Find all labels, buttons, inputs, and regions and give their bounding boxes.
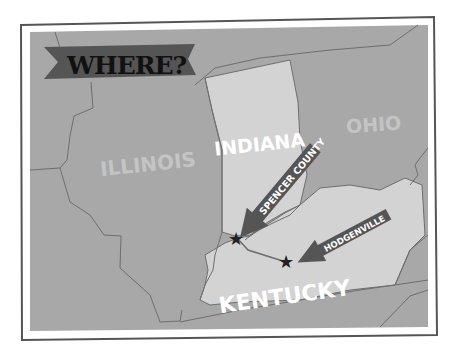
star-icon-hodgenville: ★ (278, 251, 294, 272)
state-label-ohio: OHIO (345, 111, 402, 137)
star-icon-spencer-county: ★ (228, 228, 244, 249)
map-illustration: ILLINOIS INDIANA OHIO KENTUCKY SPENCER C… (0, 0, 457, 360)
map-area: ILLINOIS INDIANA OHIO KENTUCKY SPENCER C… (30, 25, 428, 331)
page-title: WHERE? (66, 51, 187, 80)
title-banner: WHERE? (44, 44, 196, 80)
